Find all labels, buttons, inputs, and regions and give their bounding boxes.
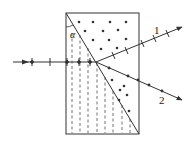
angle-arc (66, 25, 73, 27)
angle-label: α (70, 29, 76, 40)
optic-axis-dots-lower (111, 79, 131, 113)
ray-2-label: 2 (159, 94, 165, 106)
optic-axis-dots-upper (78, 21, 128, 51)
prism-diagram: α 1 2 (0, 0, 196, 149)
ray-1-ticks (112, 30, 169, 59)
ray-1-label: 1 (154, 24, 160, 36)
incident-arrow-icon (22, 60, 29, 65)
